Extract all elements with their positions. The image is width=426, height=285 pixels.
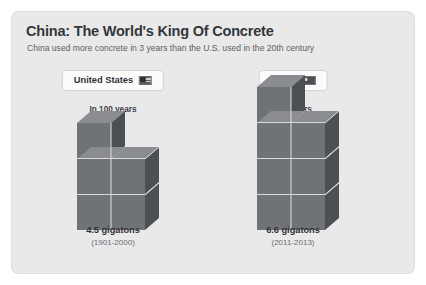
cube-stack-china — [233, 86, 353, 216]
value-label-united-states: 4.5 gigatons — [12, 225, 214, 235]
cube — [111, 147, 159, 194]
value-label-china: 6.6 gigatons — [192, 225, 394, 235]
country-column-united-states: United States In 100 years — [12, 12, 214, 273]
infographic-panel: China: The World's King Of Concrete Chin… — [11, 11, 415, 274]
cube-stack-svg — [233, 86, 353, 216]
cube-stack-united-states — [53, 86, 173, 216]
cube-group — [77, 111, 159, 230]
cube-group — [257, 75, 339, 230]
cube — [291, 111, 339, 158]
years-label-united-states: (1901-2000) — [12, 238, 214, 247]
country-label: United States — [74, 75, 133, 85]
cube — [257, 159, 291, 194]
cube-stack-svg — [53, 86, 173, 216]
years-label-china: (2011-2013) — [192, 238, 394, 247]
flag-united-states-icon — [139, 76, 152, 85]
country-column-china: China in 3 years — [192, 12, 394, 273]
